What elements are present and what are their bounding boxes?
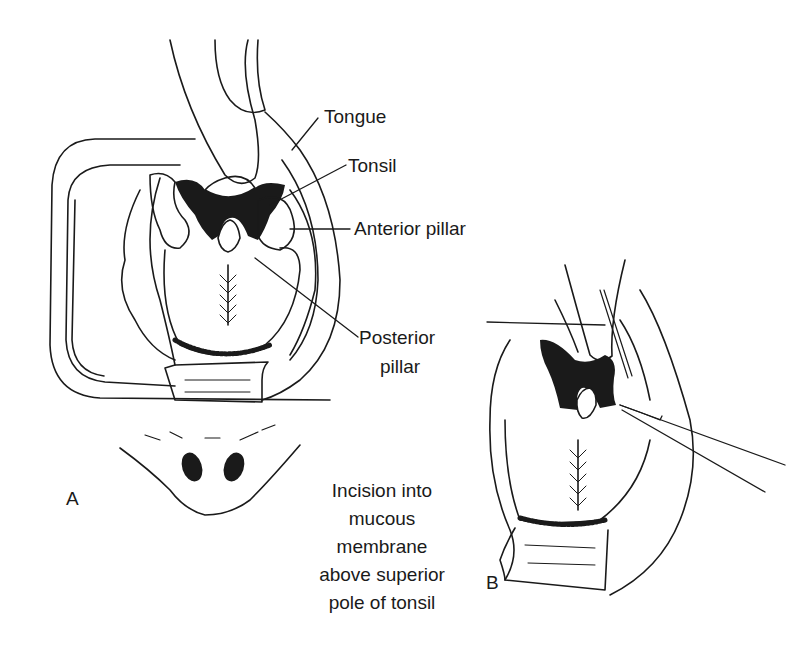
caption-line: Incision into <box>292 477 472 505</box>
label-posterior-pillar-line2: pillar <box>380 356 420 378</box>
label-tongue: Tongue <box>324 106 386 128</box>
panel-a-drawing <box>50 40 358 515</box>
label-anterior-pillar: Anterior pillar <box>354 218 466 240</box>
label-posterior-pillar-line1: Posterior <box>359 327 435 349</box>
panel-label-a: A <box>66 488 79 510</box>
caption-b: Incision into mucous membrane above supe… <box>292 477 472 617</box>
caption-line: pole of tonsil <box>292 589 472 617</box>
label-tonsil: Tonsil <box>348 155 397 177</box>
caption-line: mucous <box>292 505 472 533</box>
caption-line: above superior <box>292 561 472 589</box>
panel-b-drawing <box>487 260 785 595</box>
panel-label-b: B <box>486 572 499 594</box>
caption-line: membrane <box>292 533 472 561</box>
